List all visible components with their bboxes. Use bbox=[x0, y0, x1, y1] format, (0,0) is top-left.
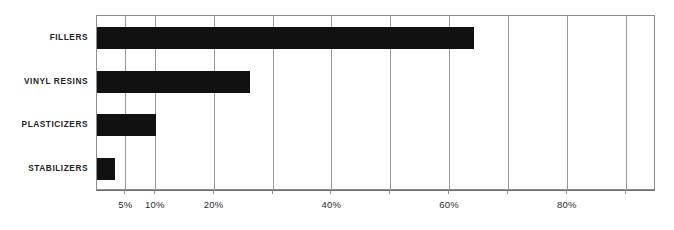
tick-label-40pct: 40% bbox=[322, 199, 342, 210]
tick-label-10pct: 10% bbox=[145, 199, 165, 210]
tick-label-20pct: 20% bbox=[204, 199, 224, 210]
category-axis: FILLERSVINYL RESINSPLASTICIZERSSTABILIZE… bbox=[0, 15, 88, 190]
tick-5pct bbox=[124, 190, 125, 194]
tick-90pct bbox=[625, 190, 626, 194]
category-label-plasticizers: PLASTICIZERS bbox=[7, 119, 88, 129]
gridline-90pct bbox=[626, 16, 627, 189]
gridline-70pct bbox=[508, 16, 509, 189]
tick-label-5pct: 5% bbox=[118, 199, 132, 210]
category-label-stabilizers: STABILIZERS bbox=[7, 163, 88, 173]
tick-20pct bbox=[213, 190, 214, 194]
bar-stabilizers bbox=[97, 158, 115, 180]
tick-50pct bbox=[389, 190, 390, 194]
tick-30pct bbox=[272, 190, 273, 194]
x-axis-line bbox=[96, 190, 655, 191]
gridline-80pct bbox=[567, 16, 568, 189]
tick-70pct bbox=[507, 190, 508, 194]
tick-80pct bbox=[566, 190, 567, 194]
tick-label-60pct: 60% bbox=[439, 199, 459, 210]
bar-fillers bbox=[97, 27, 474, 49]
bar-chart: FILLERSVINYL RESINSPLASTICIZERSSTABILIZE… bbox=[0, 0, 674, 230]
bar-vinyl-resins bbox=[97, 71, 250, 93]
tick-40pct bbox=[330, 190, 331, 194]
bar-plasticizers bbox=[97, 114, 156, 136]
category-label-vinyl-resins: VINYL RESINS bbox=[7, 76, 88, 86]
plot-area bbox=[96, 15, 655, 190]
category-label-fillers: FILLERS bbox=[7, 32, 88, 42]
tick-10pct bbox=[154, 190, 155, 194]
tick-60pct bbox=[448, 190, 449, 194]
tick-label-80pct: 80% bbox=[557, 199, 577, 210]
